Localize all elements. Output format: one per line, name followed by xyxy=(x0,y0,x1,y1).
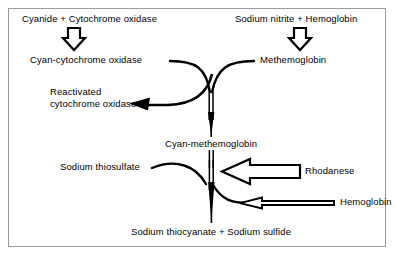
label-reactivated-line2: cytochrome oxidase xyxy=(50,98,136,110)
label-sodium-nitrite-hemoglobin: Sodium nitrite + Hemoglobin xyxy=(235,13,357,25)
label-cyan-cytochrome-oxidase: Cyan-cytochrome oxidase xyxy=(30,54,142,66)
thiosulfate-inflow-curve xyxy=(152,164,206,184)
label-cyanide-cytochrome-oxidase: Cyanide + Cytochrome oxidase xyxy=(22,13,157,25)
label-cyan-methemoglobin: Cyan-methemoglobin xyxy=(165,138,257,150)
label-rhodanese: Rhodanese xyxy=(305,165,355,177)
hemoglobin-outflow-curve xyxy=(213,185,248,203)
down-taper-arrow-icon xyxy=(208,86,214,137)
left-block-arrow-icon xyxy=(222,159,300,184)
label-hemoglobin: Hemoglobin xyxy=(340,196,392,208)
down-taper-arrow-icon xyxy=(208,160,214,223)
label-methemoglobin: Methemoglobin xyxy=(260,54,326,66)
diagram-root: Cyanide + Cytochrome oxidase Cyan-cytoch… xyxy=(0,0,395,261)
label-reactivated-line1: Reactivated xyxy=(50,86,101,98)
left-inflow-curve xyxy=(170,61,210,92)
diagram-vector-layer xyxy=(0,0,395,261)
label-sodium-thiosulfate: Sodium thiosulfate xyxy=(60,161,140,173)
label-sodium-thiocyanate-sulfide: Sodium thiocyanate + Sodium sulfide xyxy=(131,226,291,238)
curved-left-arrow-icon xyxy=(129,74,212,111)
right-inflow-curve xyxy=(212,61,254,92)
down-block-arrow-icon xyxy=(63,28,85,50)
down-block-arrow-icon xyxy=(289,28,311,50)
left-thin-hollow-arrow-icon xyxy=(240,198,334,209)
